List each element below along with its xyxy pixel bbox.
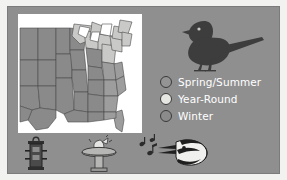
- legend-item-winter[interactable]: Winter: [160, 108, 280, 124]
- bird-feeder-icon: [23, 133, 49, 173]
- legend-label-year-round: Year-Round: [178, 93, 238, 105]
- singing-bird-icon: [136, 133, 212, 173]
- bird-silhouette: [158, 15, 280, 73]
- habitat-icon-strip: [18, 133, 218, 173]
- legend-label-spring-summer: Spring/Summer: [178, 76, 261, 88]
- content-panel: Spring/Summer Year-Round Winter: [7, 6, 280, 174]
- range-legend: Spring/Summer Year-Round Winter: [160, 74, 280, 125]
- legend-item-year-round[interactable]: Year-Round: [160, 91, 280, 107]
- range-map: [18, 14, 142, 133]
- birdbath-icon: [78, 133, 120, 173]
- legend-swatch-year-round: [160, 93, 172, 105]
- legend-swatch-winter: [160, 110, 172, 122]
- slide-canvas: Spring/Summer Year-Round Winter: [0, 0, 287, 180]
- legend-swatch-spring-summer: [160, 76, 172, 88]
- legend-item-spring-summer[interactable]: Spring/Summer: [160, 74, 280, 90]
- legend-label-winter: Winter: [178, 110, 213, 122]
